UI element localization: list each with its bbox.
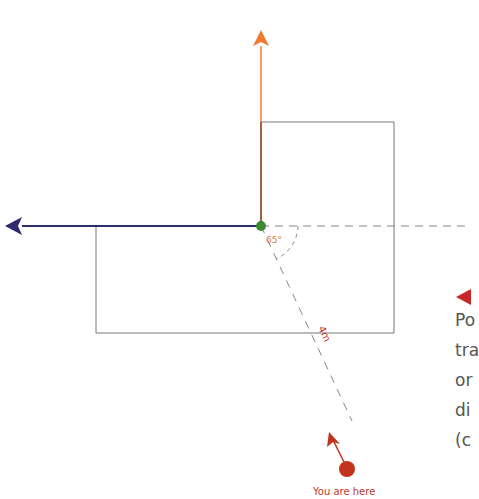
side-text-line: Po [455,305,479,335]
side-text-line: tra [455,335,479,365]
you-are-here-marker[interactable] [339,461,355,477]
side-panel-caret-icon[interactable] [456,289,471,305]
angle-label: 65° [266,235,282,245]
origin-dot [256,221,266,231]
side-text-line: di [455,395,479,425]
you-are-here-label: You are here [312,486,375,497]
you-direction-arrow-icon [327,432,340,447]
west-arrow-icon [5,217,22,235]
building-outline [96,122,394,333]
distance-label: 4m [316,324,333,343]
side-text-line: or [455,365,479,395]
side-description-text: Po tra or di (c [455,305,479,455]
north-arrow-icon [253,30,269,46]
side-text-line: (c [455,425,479,455]
bearing-dashed-line [261,226,352,421]
